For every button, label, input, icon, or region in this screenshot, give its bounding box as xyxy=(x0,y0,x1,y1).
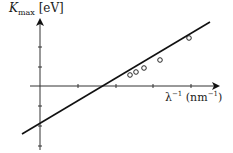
x-label-unit-close: ) xyxy=(218,91,222,104)
data-point-marker xyxy=(142,66,147,71)
y-label-unit: [eV] xyxy=(39,1,64,15)
data-point-marker xyxy=(128,73,133,78)
y-axis-label: Kmax [eV] xyxy=(9,1,64,17)
y-label-symbol: K xyxy=(9,1,18,15)
data-point-marker xyxy=(134,70,139,75)
data-point-marker xyxy=(158,58,163,63)
x-label-symbol: λ xyxy=(165,91,172,104)
x-axis-label: λ−1 (nm−1) xyxy=(165,90,222,104)
x-label-exp: −1 xyxy=(172,90,182,98)
data-point-marker xyxy=(187,36,192,41)
x-label-unit: (nm xyxy=(182,91,207,104)
fit-line xyxy=(22,22,210,134)
x-label-unit-exp: −1 xyxy=(208,90,218,98)
data-points xyxy=(128,36,192,78)
y-label-subscript: max xyxy=(18,8,35,17)
chart-canvas xyxy=(0,0,233,153)
